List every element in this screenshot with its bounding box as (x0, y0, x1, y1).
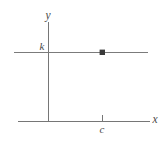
math-figure: y x k c (0, 0, 164, 142)
y-axis-label: y (44, 9, 51, 22)
coordinate-plot-canvas: y x k c (0, 0, 164, 142)
plot-point-c-k (100, 50, 105, 55)
x-axis-label: x (151, 113, 158, 125)
abscissa-label-c: c (100, 123, 105, 135)
level-value-label-k: k (40, 40, 46, 52)
